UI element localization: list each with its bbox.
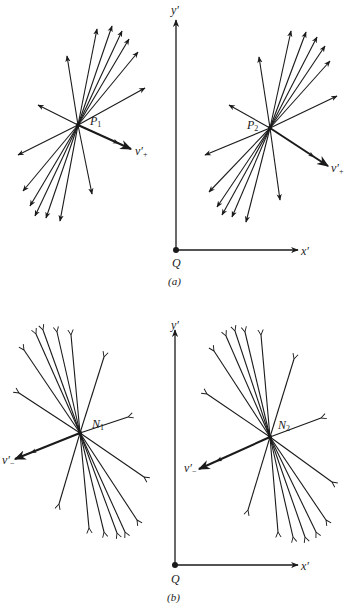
field-line [78, 52, 138, 125]
field-line [67, 56, 78, 125]
field-line [71, 335, 80, 433]
field-line [43, 330, 80, 433]
field-line [270, 437, 293, 537]
velocity-vector [270, 128, 328, 166]
velocity-label-v-minus-2: v′− [184, 462, 196, 476]
field-line [35, 125, 78, 216]
origin-dot [173, 247, 179, 253]
source-label-p2: P2 [247, 119, 258, 133]
origin-label-q-a: Q [172, 257, 181, 269]
field-line [270, 437, 305, 537]
field-line [78, 88, 145, 125]
source-point [268, 126, 272, 130]
field-line [259, 57, 270, 128]
field-line [80, 433, 104, 532]
field-line [59, 433, 80, 504]
field-line [80, 433, 137, 520]
velocity-label-v-plus-1: v′+ [135, 145, 147, 159]
source-label-p1: P1 [90, 115, 101, 129]
velocity-label-v-plus-2: v′+ [331, 162, 343, 176]
source-label-n1: N1 [92, 418, 104, 432]
field-line [78, 125, 92, 194]
field-line [270, 37, 317, 128]
velocity-label-v-minus-1: v′− [2, 454, 14, 468]
origin-label-q-b: Q [171, 573, 180, 585]
field-line [24, 350, 80, 433]
axis-y-label-b: y′ [171, 319, 179, 331]
source-point [76, 123, 80, 127]
field-line [38, 105, 78, 125]
caption-a: (a) [168, 275, 181, 287]
field-line [80, 433, 117, 533]
field-line [270, 46, 325, 128]
field-line [245, 332, 270, 437]
field-line [270, 437, 326, 520]
panel-a [18, 20, 337, 253]
velocity-vector [78, 125, 131, 149]
field-line [78, 31, 122, 125]
field-line [57, 332, 80, 433]
origin-dot [172, 562, 178, 568]
field-line [23, 125, 78, 191]
axis-x-label-a: x′ [301, 245, 309, 257]
source-point [78, 431, 82, 435]
field-line [214, 351, 270, 437]
axis-x-label-b: x′ [301, 560, 309, 572]
field-line [235, 331, 270, 437]
field-line [80, 433, 89, 528]
field-line [270, 128, 280, 200]
caption-b: (b) [167, 591, 180, 603]
source-label-n2: N2 [278, 419, 290, 433]
velocity-vector [199, 437, 270, 469]
panel-b [15, 330, 332, 568]
source-point [268, 435, 272, 439]
field-line [217, 128, 270, 207]
axis-y-label-a: y′ [171, 4, 179, 16]
field-line [248, 437, 270, 510]
velocity-vector [15, 433, 80, 459]
field-lines-diagram [0, 0, 346, 608]
